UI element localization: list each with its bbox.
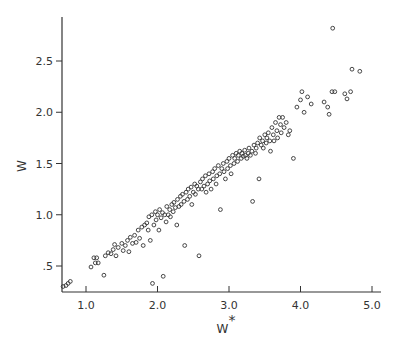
data-point xyxy=(123,244,127,248)
data-point xyxy=(286,133,290,137)
data-point xyxy=(276,136,280,140)
data-point xyxy=(165,205,169,209)
data-point xyxy=(227,157,231,161)
data-point xyxy=(282,126,286,130)
data-point xyxy=(150,213,154,217)
data-point xyxy=(271,133,275,137)
data-point xyxy=(202,184,206,188)
y-axis-ticks: .51.01.52.02.5 xyxy=(36,55,63,273)
data-point xyxy=(134,241,138,245)
data-point xyxy=(154,218,158,222)
data-point xyxy=(349,90,353,94)
data-points xyxy=(61,26,362,288)
data-point xyxy=(306,95,310,99)
data-point xyxy=(189,185,193,189)
x-tick-label: 4.0 xyxy=(292,299,310,312)
data-point xyxy=(272,139,276,143)
data-point xyxy=(201,177,205,181)
x-tick-label: 2.0 xyxy=(149,299,167,312)
data-point xyxy=(222,170,226,174)
data-point xyxy=(261,139,265,143)
data-point xyxy=(254,146,258,150)
data-point xyxy=(247,146,251,150)
data-point xyxy=(138,236,142,240)
data-point xyxy=(102,273,106,277)
y-tick-label: 2.5 xyxy=(36,55,54,68)
data-point xyxy=(268,139,272,143)
data-point xyxy=(211,177,215,181)
data-point xyxy=(279,131,283,135)
data-point xyxy=(250,149,254,153)
data-point xyxy=(190,203,194,207)
data-point xyxy=(114,254,118,258)
data-point xyxy=(327,112,331,116)
data-point xyxy=(284,121,288,125)
data-point xyxy=(345,97,349,101)
data-point xyxy=(229,172,233,176)
y-tick-label: 1.5 xyxy=(36,158,54,171)
data-point xyxy=(295,105,299,109)
data-point xyxy=(207,172,211,176)
y-tick-label: .5 xyxy=(43,260,54,273)
data-point xyxy=(350,67,354,71)
y-tick-label: 2.0 xyxy=(36,106,54,119)
data-point xyxy=(141,244,145,248)
data-point xyxy=(218,172,222,176)
data-point xyxy=(113,243,117,247)
data-point xyxy=(269,149,273,153)
data-point xyxy=(204,174,208,178)
data-point xyxy=(103,254,107,258)
x-axis-ticks: 1.02.03.04.05.0 xyxy=(77,286,381,312)
data-point xyxy=(299,98,303,102)
data-point xyxy=(213,167,217,171)
x-axis-label-star: * xyxy=(228,312,235,328)
data-point xyxy=(264,141,268,145)
data-point xyxy=(257,177,261,181)
data-point xyxy=(197,254,201,258)
data-point xyxy=(343,92,347,96)
data-point xyxy=(221,162,225,166)
data-point xyxy=(229,164,233,168)
data-point xyxy=(159,216,163,220)
data-point xyxy=(214,182,218,186)
data-point xyxy=(309,102,313,106)
data-point xyxy=(219,208,223,212)
data-point xyxy=(175,223,179,227)
scatter-chart: .51.01.52.02.5 1.02.03.04.05.0 W W* xyxy=(0,0,399,347)
data-point xyxy=(188,194,192,198)
data-point xyxy=(300,90,304,94)
data-point xyxy=(127,250,131,254)
x-tick-label: 5.0 xyxy=(363,299,381,312)
data-point xyxy=(243,148,247,152)
data-point xyxy=(89,265,93,269)
data-point xyxy=(148,239,152,243)
data-point xyxy=(157,228,161,232)
data-point xyxy=(302,110,306,114)
data-point xyxy=(111,248,115,252)
x-axis-label: W* xyxy=(217,312,236,336)
data-point xyxy=(121,249,125,253)
data-point xyxy=(116,246,120,250)
data-point xyxy=(156,213,160,217)
data-point xyxy=(164,220,168,224)
data-point xyxy=(326,105,330,109)
y-axis-label: W xyxy=(15,160,29,172)
data-point xyxy=(152,223,156,227)
data-point xyxy=(254,151,258,155)
data-point xyxy=(266,131,270,135)
data-point xyxy=(331,26,335,30)
data-point xyxy=(251,200,255,204)
data-point xyxy=(232,162,236,166)
data-point xyxy=(292,157,296,161)
data-point xyxy=(146,228,150,232)
data-point xyxy=(204,190,208,194)
x-tick-label: 3.0 xyxy=(220,299,238,312)
plot-area: .51.01.52.02.5 1.02.03.04.05.0 xyxy=(36,17,382,312)
data-point xyxy=(128,235,132,239)
data-point xyxy=(256,141,260,145)
data-point xyxy=(261,146,265,150)
data-point xyxy=(158,208,162,212)
data-point xyxy=(358,69,362,73)
data-point xyxy=(133,233,137,237)
y-tick-label: 1.0 xyxy=(36,209,54,222)
